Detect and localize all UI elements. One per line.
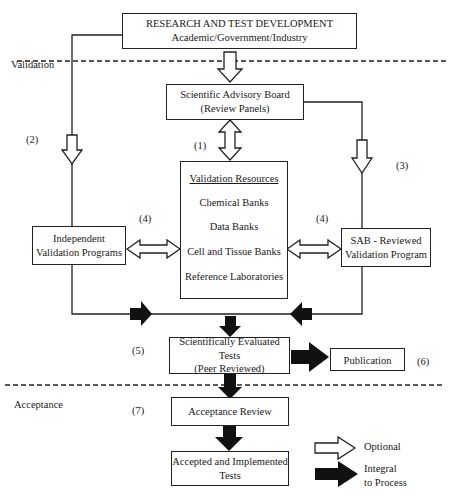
legend-integral-line1: Integral [364, 462, 407, 476]
accepted-implemented-tests-box: Accepted and Implemented Tests [171, 451, 289, 486]
step-label-2: (2) [26, 134, 38, 145]
independent-validation-box: Independent Validation Programs [32, 226, 126, 265]
scientific-advisory-board-box: Scientific Advisory Board (Review Panels… [166, 84, 304, 120]
section-label-validation: Validation [11, 59, 54, 70]
step-label-1: (1) [194, 140, 206, 151]
acceptance-review-label: Acceptance Review [188, 405, 272, 419]
independent-line1: Independent [53, 232, 105, 246]
integral-arrow-right [290, 302, 312, 326]
independent-line2: Validation Programs [36, 246, 122, 260]
research-title: RESEARCH AND TEST DEVELOPMENT [146, 17, 333, 31]
connector-left [72, 35, 122, 137]
sab-line2: (Review Panels) [200, 102, 269, 116]
evaluated-line1: Scientifically Evaluated Tests [170, 335, 289, 362]
research-subtitle: Academic/Government/Industry [172, 31, 308, 45]
optional-arrow-sab-resources [219, 120, 241, 160]
accepted-line2: Tests [219, 469, 240, 483]
publication-box: Publication [330, 348, 405, 371]
publication-label: Publication [344, 354, 392, 368]
integral-arrow-to-accepted [215, 424, 243, 451]
sab-reviewed-line1: SAB - Reviewed [350, 234, 421, 248]
research-development-box: RESEARCH AND TEST DEVELOPMENT Academic/G… [122, 13, 357, 49]
legend-integral-label: Integral to Process [364, 462, 407, 489]
legend-optional-label: Optional [364, 441, 401, 452]
optional-arrow-research-to-sab [218, 52, 242, 82]
step-label-4-right: (4) [316, 213, 328, 224]
acceptance-review-box: Acceptance Review [171, 397, 289, 426]
legend-integral-line2: to Process [364, 476, 407, 490]
section-label-acceptance: Acceptance [14, 399, 63, 410]
resource-item: Data Banks [210, 220, 259, 234]
integral-arrow-left [130, 301, 152, 326]
scientifically-evaluated-tests-box: Scientifically Evaluated Tests (Peer Rev… [169, 337, 290, 374]
step-label-3: (3) [396, 160, 408, 171]
resource-item: Cell and Tissue Banks [187, 245, 281, 259]
step-label-7: (7) [132, 405, 144, 416]
sab-reviewed-line2: Validation Program [345, 248, 427, 262]
optional-arrow-down-right [352, 140, 372, 173]
evaluated-line2: (Peer Reviewed) [194, 362, 264, 376]
integral-arrow-to-publication [291, 342, 329, 372]
optional-arrow-resources-sabreviewed [287, 240, 341, 258]
legend-optional-arrow-icon [315, 437, 355, 459]
optional-arrow-independent-resources [127, 240, 180, 258]
step-label-4-left: (4) [139, 213, 151, 224]
sab-line1: Scientific Advisory Board [180, 88, 290, 102]
step-label-6: (6) [417, 356, 429, 367]
resource-item: Chemical Banks [199, 196, 268, 210]
legend-integral-arrow-icon [315, 461, 358, 487]
integral-arrow-to-evaluated [219, 316, 241, 337]
connector-right [304, 102, 362, 140]
integral-arrow-to-acceptance [218, 373, 242, 399]
resources-title: Validation Resources [190, 172, 279, 186]
validation-resources-box: Validation Resources Chemical Banks Data… [180, 161, 288, 299]
accepted-line1: Accepted and Implemented [172, 455, 287, 469]
resource-item: Reference Laboratories [185, 270, 283, 284]
optional-arrow-down-left [62, 135, 82, 164]
step-label-5: (5) [132, 345, 144, 356]
sab-reviewed-validation-box: SAB - Reviewed Validation Program [341, 228, 431, 267]
